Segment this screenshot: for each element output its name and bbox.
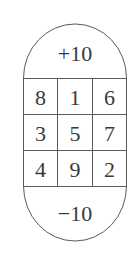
grid-cell-r1c3: 6 [104,85,115,110]
grid-cell-r2c1: 3 [35,121,46,146]
magic-square-diagram: +10 8 1 6 3 5 7 4 9 2 −10 [0,0,140,254]
bottom-label: −10 [58,201,92,226]
grid-cell-r3c1: 4 [35,157,46,182]
grid-cell-r3c3: 2 [104,157,115,182]
grid-cell-r2c2: 5 [70,121,81,146]
grid-cell-r2c3: 7 [104,121,115,146]
grid-cell-r1c2: 1 [70,85,81,110]
grid-cell-r1c1: 8 [35,85,46,110]
top-label: +10 [58,41,92,66]
grid-cell-r3c2: 9 [70,157,81,182]
